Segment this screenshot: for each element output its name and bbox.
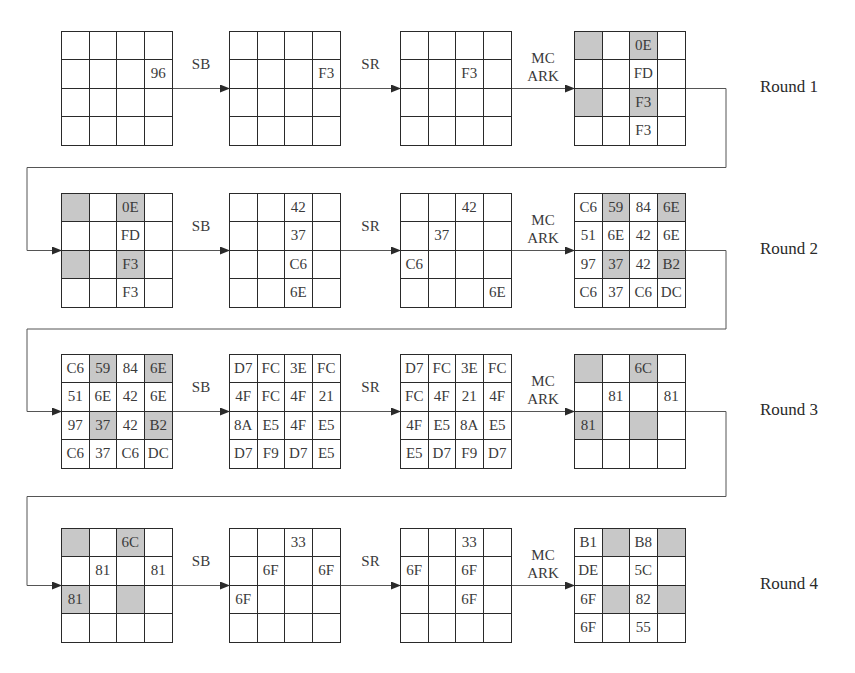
state-cell [575,89,603,117]
state-cell [90,222,118,250]
state-cell: 6F [258,557,286,585]
state-cell: 37 [90,440,118,468]
state-cell [285,586,313,614]
state-cell [117,557,145,585]
state-cell [401,117,429,145]
state-cell [603,60,631,88]
sb-label: SB [171,552,231,570]
state-cell: E5 [258,412,286,440]
state-cell [285,117,313,145]
state-cell: 6E [90,383,118,411]
state-cell [484,586,512,614]
state-matrix: 336F6F6F [229,528,341,643]
state-cell [90,117,118,145]
state-cell: C6 [62,440,90,468]
mc-text: MC [513,546,573,564]
state-cell: E5 [401,440,429,468]
state-cell: 4F [230,383,258,411]
state-cell [258,279,286,307]
state-cell [313,222,341,250]
sr-text: SR [361,56,379,72]
state-cell [603,89,631,117]
state-matrix: 6C818181 [574,354,686,469]
state-cell: F3 [117,279,145,307]
state-cell [258,222,286,250]
state-cell [258,32,286,60]
state-cell: 3E [456,355,484,383]
state-matrix: C659846E516E426E973742B2C637C6DC [61,354,173,469]
state-cell [658,117,686,145]
state-cell: DE [575,557,603,585]
state-cell: 84 [630,194,658,222]
state-cell: 3E [285,355,313,383]
state-cell: 81 [62,586,90,614]
ark-text: ARK [513,564,573,582]
state-cell [230,194,258,222]
state-cell [603,557,631,585]
state-matrix: 0EFDF3F3 [574,31,686,146]
state-cell: 37 [603,279,631,307]
state-matrix: F3 [229,31,341,146]
state-cell [313,529,341,557]
state-cell: F3 [630,89,658,117]
state-cell [230,279,258,307]
state-cell: 59 [603,194,631,222]
state-cell [62,251,90,279]
state-cell [456,89,484,117]
state-cell [90,279,118,307]
state-cell [258,529,286,557]
state-cell: 6E [145,355,173,383]
state-cell [603,440,631,468]
state-cell [575,440,603,468]
state-cell: 6E [658,222,686,250]
state-cell [484,60,512,88]
state-cell [658,557,686,585]
state-cell [62,32,90,60]
state-cell [603,614,631,642]
state-cell [401,279,429,307]
state-cell: 6F [575,614,603,642]
sb-text: SB [192,379,210,395]
state-cell [285,614,313,642]
state-cell [90,529,118,557]
state-cell [230,89,258,117]
state-cell: 55 [630,614,658,642]
state-cell [429,194,457,222]
state-cell [575,32,603,60]
state-cell [62,117,90,145]
state-cell [401,89,429,117]
state-cell: 84 [117,355,145,383]
state-cell: 6F [575,586,603,614]
state-cell: FC [401,383,429,411]
state-cell: 81 [90,557,118,585]
state-cell: 8A [230,412,258,440]
state-cell [429,557,457,585]
state-cell [117,32,145,60]
state-cell: B1 [575,529,603,557]
state-cell [145,117,173,145]
state-cell: 4F [285,412,313,440]
state-cell: 6F [401,557,429,585]
state-cell [429,89,457,117]
state-cell: FC [429,355,457,383]
state-cell: 0E [117,194,145,222]
state-cell [401,60,429,88]
state-cell: 42 [285,194,313,222]
state-cell: 6F [456,586,484,614]
state-cell [456,32,484,60]
state-cell [230,222,258,250]
state-cell [575,60,603,88]
state-cell [285,89,313,117]
state-cell [429,251,457,279]
ark-text: ARK [513,67,573,85]
state-matrix: 4237C66E [229,193,341,308]
state-cell [117,586,145,614]
state-cell: 6E [484,279,512,307]
state-cell [313,251,341,279]
state-cell: 6F [313,557,341,585]
sr-label: SR [341,552,401,570]
state-cell [62,557,90,585]
state-cell [456,222,484,250]
state-cell [603,412,631,440]
state-cell [484,251,512,279]
